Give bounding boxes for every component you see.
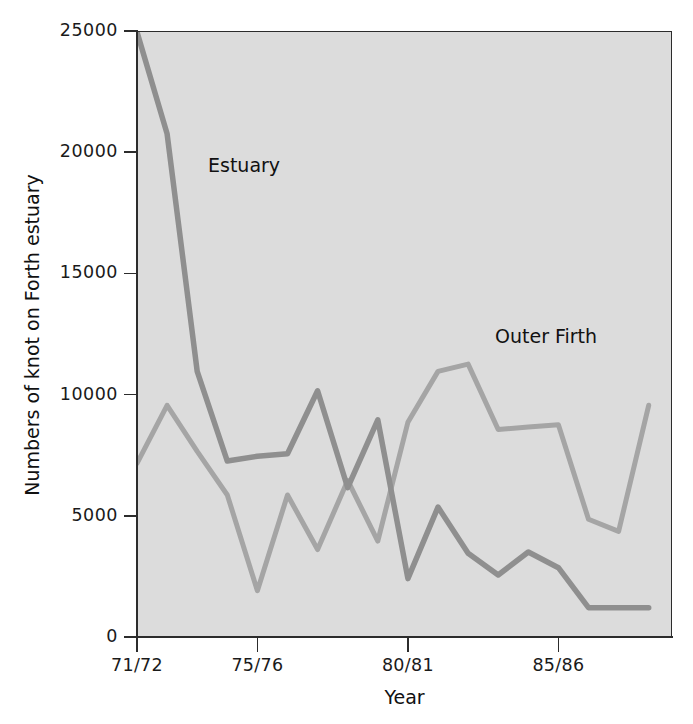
y-tick-5000 <box>124 515 137 517</box>
chart-figure: 0500010000150002000025000 71/7275/7680/8… <box>0 0 693 724</box>
series-line-estuary <box>137 32 649 608</box>
x-axis-title: Year <box>137 686 672 708</box>
y-tick-15000 <box>124 273 137 275</box>
y-tick-label-0: 0 <box>0 626 118 646</box>
series-label-outer-firth: Outer Firth <box>495 325 597 347</box>
y-axis-line <box>136 30 138 638</box>
x-tick-75-76 <box>257 637 259 652</box>
x-axis-line <box>136 636 673 638</box>
y-tick-20000 <box>124 151 137 153</box>
y-tick-label-25000: 25000 <box>0 20 118 40</box>
x-tick-85-86 <box>558 637 560 652</box>
y-axis-title: Numbers of knot on Forth estuary <box>21 125 43 545</box>
y-tick-label-15000: 15000 <box>0 262 118 282</box>
y-tick-label-20000: 20000 <box>0 141 118 161</box>
y-tick-25000 <box>124 30 137 32</box>
y-tick-0 <box>124 636 137 638</box>
x-tick-label-85-86: 85/86 <box>532 655 584 675</box>
y-tick-label-5000: 5000 <box>0 505 118 525</box>
x-tick-71-72 <box>136 637 138 652</box>
y-tick-10000 <box>124 394 137 396</box>
x-tick-80-81 <box>407 637 409 652</box>
x-tick-label-80-81: 80/81 <box>382 655 434 675</box>
series-label-estuary: Estuary <box>208 154 280 176</box>
x-tick-label-71-72: 71/72 <box>111 655 163 675</box>
x-tick-label-75-76: 75/76 <box>231 655 283 675</box>
y-tick-label-10000: 10000 <box>0 384 118 404</box>
series-line-outer-firth <box>137 364 649 591</box>
